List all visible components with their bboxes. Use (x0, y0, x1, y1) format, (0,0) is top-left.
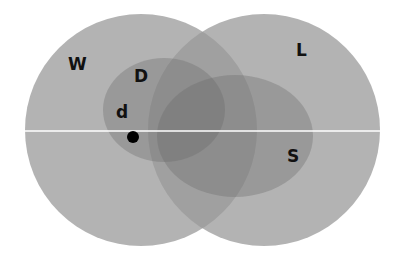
venn-svg (0, 0, 394, 253)
label-l: L (296, 42, 307, 59)
set-s-ellipse (157, 75, 313, 197)
label-w: W (68, 56, 87, 73)
venn-diagram: W L D d S (0, 0, 394, 253)
label-d-lower: d (116, 104, 128, 121)
point-d-dot (127, 131, 139, 143)
label-s: S (287, 148, 299, 165)
label-d-upper: D (134, 68, 148, 85)
